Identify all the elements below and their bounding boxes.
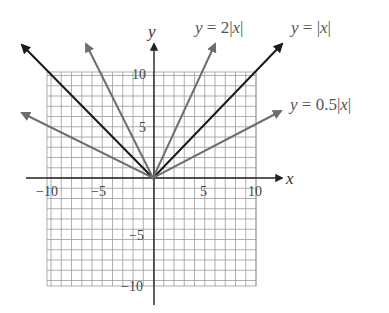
y-tick-label: 10 — [132, 67, 146, 82]
function-graph: x y −10 −5 5 10 10 5 −5 −10 y = 2|x| y =… — [0, 0, 389, 313]
series-label-2abs: y = 2|x| — [193, 18, 244, 37]
x-axis-label: x — [285, 169, 294, 188]
x-tick-label: 5 — [200, 184, 207, 199]
y-tick-label: −10 — [121, 279, 143, 294]
y-tick-label: 5 — [139, 120, 146, 135]
x-tick-label: 10 — [248, 184, 262, 199]
series-label-half-abs: y = 0.5|x| — [288, 95, 351, 114]
y-tick-label: −5 — [129, 228, 144, 243]
series-label-abs: y = |x| — [289, 18, 331, 37]
y-axis-label: y — [146, 22, 156, 41]
x-tick-label: −5 — [91, 184, 106, 199]
x-tick-label: −10 — [36, 184, 58, 199]
